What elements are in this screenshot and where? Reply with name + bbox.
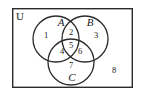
region-label-8: 8 bbox=[112, 65, 116, 75]
set-label-c: C bbox=[68, 71, 76, 83]
region-label-1: 1 bbox=[44, 30, 48, 40]
venn-diagram-figure: U A B C 1 2 3 4 5 6 7 8 bbox=[0, 0, 142, 97]
region-label-7: 7 bbox=[69, 60, 73, 70]
set-label-a: A bbox=[57, 16, 65, 28]
set-label-b: B bbox=[87, 16, 94, 28]
region-label-2: 2 bbox=[69, 27, 73, 37]
region-label-5: 5 bbox=[69, 40, 73, 50]
region-label-6: 6 bbox=[78, 46, 82, 56]
region-label-3: 3 bbox=[94, 30, 98, 40]
universal-set-label: U bbox=[16, 10, 24, 22]
